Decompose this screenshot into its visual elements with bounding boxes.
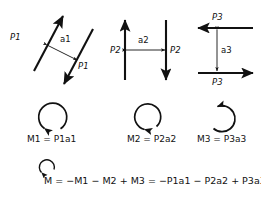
label-p2-left: P2 [110, 46, 121, 55]
equation-m1: M1 = P1a1 [27, 135, 76, 144]
label-p3-bottom: P3 [212, 78, 223, 87]
label-p3-top: P3 [212, 13, 223, 22]
label-a2: a2 [138, 36, 149, 45]
moment-arc-m2-counterclockwise [135, 104, 161, 130]
couple-moment-figure: P1 a1 P1 P2 a2 P2 P3 a3 P3 M1 = P1a1 M2 … [0, 0, 261, 206]
equation-resultant-moment: M = −M1 − M2 + M3 = −P1a1 − P2a2 + P3a3 [44, 176, 261, 186]
label-p1-right: P1 [78, 62, 89, 71]
label-p2-right: P2 [170, 46, 181, 55]
moment-arc-m3-clockwise [214, 106, 236, 132]
label-a3: a3 [221, 46, 232, 55]
label-p1-left: P1 [10, 33, 21, 42]
equation-m3: M3 = P3a3 [197, 135, 246, 144]
moment-arc-m1-path [39, 103, 67, 129]
equation-m2: M2 = P2a2 [127, 135, 176, 144]
label-a1: a1 [60, 35, 71, 44]
moment-arc-resultant-path [39, 160, 54, 173]
moment-arc-m3-path [214, 106, 236, 132]
arm-line-a1 [47, 45, 77, 60]
moment-arc-m1-counterclockwise [39, 103, 67, 129]
panel-2-couple-p2 [125, 20, 166, 80]
panel-1-couple-p1 [34, 16, 93, 84]
moment-arc-m2-path [135, 104, 161, 130]
moment-arc-resultant-counterclockwise [39, 160, 54, 173]
force-arrow-p1-left [34, 16, 63, 71]
